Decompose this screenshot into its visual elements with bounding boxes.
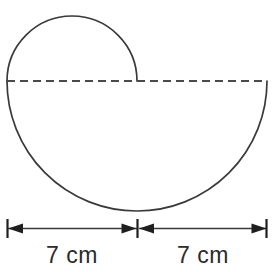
left-dimension-group: [8, 219, 138, 238]
figure-canvas: 7 cm 7 cm: [0, 0, 277, 272]
small-semicircle-arc: [7, 16, 137, 81]
left-dimension-arrow-left: [8, 224, 23, 234]
right-dimension-group: [139, 219, 267, 238]
left-dimension-label: 7 cm: [46, 242, 98, 268]
large-semicircle-arc: [7, 81, 267, 211]
right-dimension-arrow-left: [139, 224, 154, 234]
right-dimension-label: 7 cm: [177, 242, 229, 268]
left-dimension-arrow-right: [122, 224, 137, 234]
right-dimension-arrow-right: [252, 224, 267, 234]
geometry-figure: 7 cm 7 cm: [0, 0, 277, 272]
